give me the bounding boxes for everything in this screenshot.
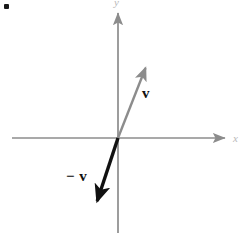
vector-negative-v-label: − v <box>66 169 87 184</box>
x-axis-label: x <box>233 133 238 144</box>
vector-diagram-canvas <box>0 0 242 236</box>
vector-figure: v − v x y <box>0 0 242 236</box>
vector-negative-v-arrow <box>97 138 118 201</box>
vector-v-arrow <box>118 68 146 138</box>
y-axis-label: y <box>114 0 119 8</box>
vector-v-label: v <box>142 86 150 101</box>
